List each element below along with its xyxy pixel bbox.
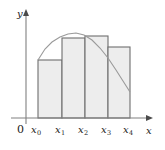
x-axis-arrow-icon [146, 115, 153, 121]
y-axis-arrow-icon [23, 9, 29, 16]
riemann-bar [62, 38, 85, 118]
tick-subscript: 2 [84, 129, 88, 137]
tick-base: x [101, 124, 107, 135]
tick-base: x [31, 124, 37, 135]
tick-base: x [55, 124, 61, 135]
tick-label-x1: x1 [55, 125, 65, 135]
tick-label-x0: x0 [31, 125, 41, 135]
tick-subscript: 3 [107, 129, 111, 137]
tick-base: x [123, 124, 129, 135]
tick-base: x [78, 124, 84, 135]
y-axis-label: y [17, 9, 23, 19]
riemann-sum-figure: y x 0 x0 x1 x2 x3 x4 [0, 0, 165, 150]
x-axis-label: x [146, 126, 152, 136]
tick-label-x4: x4 [123, 125, 133, 135]
y-axis [23, 9, 29, 124]
tick-label-x3: x3 [101, 125, 111, 135]
tick-subscript: 4 [129, 129, 133, 137]
tick-label-x2: x2 [78, 125, 88, 135]
riemann-bar [38, 60, 62, 118]
riemann-bar [85, 36, 108, 118]
riemann-rectangles [38, 36, 130, 118]
tick-subscript: 0 [37, 129, 41, 137]
riemann-bar [108, 47, 130, 118]
origin-label: 0 [17, 124, 24, 135]
tick-subscript: 1 [61, 129, 65, 137]
